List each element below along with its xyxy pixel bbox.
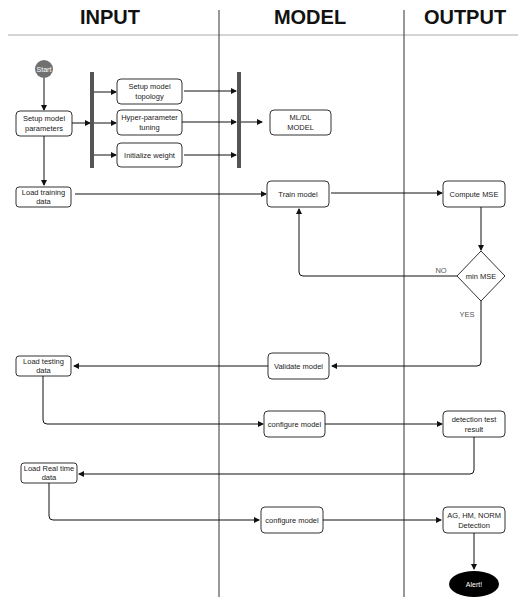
start-label: Start [37,66,52,73]
node-compute-mse[interactable]: Compute MSE [443,181,505,207]
decision-min-mse-label: min MSE [466,272,496,281]
node-ml-dl-model-line1: ML/DL [289,113,311,122]
node-setup-params-line1: Setup model [23,114,65,123]
activity-diagram: INPUT MODEL OUTPUT Start Setup model par… [0,0,529,610]
node-setup-params-line2: parameters [25,124,63,133]
fork-bar [90,72,94,168]
edge-detection-to-load-realtime [79,437,474,474]
node-validate-model[interactable]: Validate model [268,353,329,379]
node-hyper-tuning-line2: tuning [139,123,159,132]
node-train-model[interactable]: Train model [267,181,329,207]
node-detection-test-line1: detection test [452,415,498,424]
node-load-realtime[interactable]: Load Real time data [21,463,77,483]
lane-title-model: MODEL [274,6,346,28]
node-detection-test-line2: result [465,425,484,434]
edge-label-yes: YES [459,310,474,319]
edge-label-no: NO [435,266,446,275]
lane-title-input: INPUT [80,6,140,28]
node-setup-params[interactable]: Setup model parameters [16,111,72,136]
node-ag-hm-norm[interactable]: AG, HM, NORM Detection [443,507,505,533]
lane-title-output: OUTPUT [424,6,506,28]
node-hyper-tuning-line1: Hyper-parameter [121,113,178,122]
node-ag-hm-norm-line1: AG, HM, NORM [447,511,501,520]
start-node[interactable]: Start [35,60,53,78]
node-configure-model-2-line1: configure model [265,516,319,525]
node-detection-test[interactable]: detection test result [443,411,505,437]
node-validate-model-line1: Validate model [274,362,323,371]
edge-load-testing-to-configure [43,376,263,424]
node-load-testing-line1: Load testing [23,357,64,366]
diagram-svg: INPUT MODEL OUTPUT Start Setup model par… [0,0,529,610]
node-load-realtime-line2: data [42,473,57,482]
node-ag-hm-norm-line2: Detection [458,521,490,530]
edge-no-to-train [299,209,457,276]
node-train-model-line1: Train model [278,190,318,199]
end-node-alert[interactable]: Alert! [449,571,499,597]
node-load-realtime-line1: Load Real time [24,464,74,473]
node-ml-dl-model[interactable]: ML/DL MODEL [270,110,331,135]
node-setup-topology[interactable]: Setup model topology [117,79,182,104]
node-load-training-line2: data [36,197,51,206]
node-load-training-line1: Load training [22,188,65,197]
node-load-testing-line2: data [36,366,51,375]
node-init-weight-line1: Initialize weight [124,151,176,160]
edge-load-realtime-to-configure [49,483,259,520]
join-bar [237,72,241,168]
node-load-testing[interactable]: Load testing data [16,356,71,376]
node-hyper-tuning[interactable]: Hyper-parameter tuning [117,110,182,135]
node-setup-topology-line2: topology [135,92,164,101]
node-ml-dl-model-line2: MODEL [287,123,314,132]
node-configure-model-1-line1: configure model [268,420,322,429]
decision-min-mse[interactable]: min MSE [457,251,505,301]
node-setup-topology-line1: Setup model [128,82,170,91]
node-configure-model-2[interactable]: configure model [261,507,323,533]
node-compute-mse-line1: Compute MSE [450,190,499,199]
node-configure-model-1[interactable]: configure model [264,411,325,437]
node-load-training[interactable]: Load training data [16,187,71,207]
end-label: Alert! [466,581,482,588]
node-init-weight[interactable]: Initialize weight [117,143,182,167]
